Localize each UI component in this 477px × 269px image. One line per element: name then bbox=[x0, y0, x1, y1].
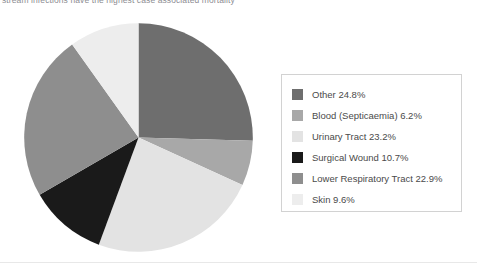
legend-color-swatch bbox=[292, 152, 303, 163]
figure-bottom-divider bbox=[0, 262, 477, 263]
legend-item-label: Lower Respiratory Tract 22.9% bbox=[312, 173, 442, 184]
legend-item: Blood (Septicaemia) 6.2% bbox=[292, 105, 461, 126]
legend-item-label: Other 24.8% bbox=[312, 89, 365, 100]
legend-item: Other 24.8% bbox=[292, 84, 461, 105]
legend-item-label: Urinary Tract 23.2% bbox=[312, 131, 396, 142]
legend-color-swatch bbox=[292, 194, 303, 205]
pie-slice-group bbox=[24, 23, 253, 252]
chart-legend: Other 24.8%Blood (Septicaemia) 6.2%Urina… bbox=[281, 74, 462, 212]
legend-item: Urinary Tract 23.2% bbox=[292, 126, 461, 147]
legend-item: Skin 9.6% bbox=[292, 189, 461, 210]
pie-chart bbox=[24, 23, 253, 252]
legend-color-swatch bbox=[292, 173, 303, 184]
legend-item-label: Surgical Wound 10.7% bbox=[312, 152, 408, 163]
figure-caption: stream infections have the highest case … bbox=[2, 0, 472, 5]
legend-color-swatch bbox=[292, 110, 303, 121]
pie-svg bbox=[24, 23, 253, 252]
pie-slice bbox=[139, 23, 253, 141]
legend-color-swatch bbox=[292, 131, 303, 142]
caption-clip: stream infections have the highest case … bbox=[0, 0, 477, 9]
legend-item-label: Skin 9.6% bbox=[312, 194, 355, 205]
legend-item: Lower Respiratory Tract 22.9% bbox=[292, 168, 461, 189]
legend-color-swatch bbox=[292, 89, 303, 100]
legend-item: Surgical Wound 10.7% bbox=[292, 147, 461, 168]
legend-item-label: Blood (Septicaemia) 6.2% bbox=[312, 110, 422, 121]
pie-chart-figure: stream infections have the highest case … bbox=[0, 0, 477, 269]
